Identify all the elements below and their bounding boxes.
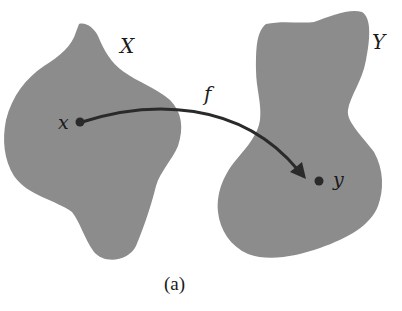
set-x-label: X	[118, 34, 135, 58]
point-y	[315, 177, 324, 186]
set-y-label: Y	[372, 30, 387, 54]
point-x	[76, 118, 85, 127]
arrow-f-label: f	[202, 82, 215, 106]
point-x-label: x	[58, 111, 69, 133]
point-y-label: y	[332, 168, 344, 190]
set-x-region	[4, 24, 181, 260]
function-mapping-diagram: X Y x y f (a)	[0, 0, 402, 311]
set-y-region	[218, 11, 382, 258]
figure-caption: (a)	[164, 273, 185, 295]
